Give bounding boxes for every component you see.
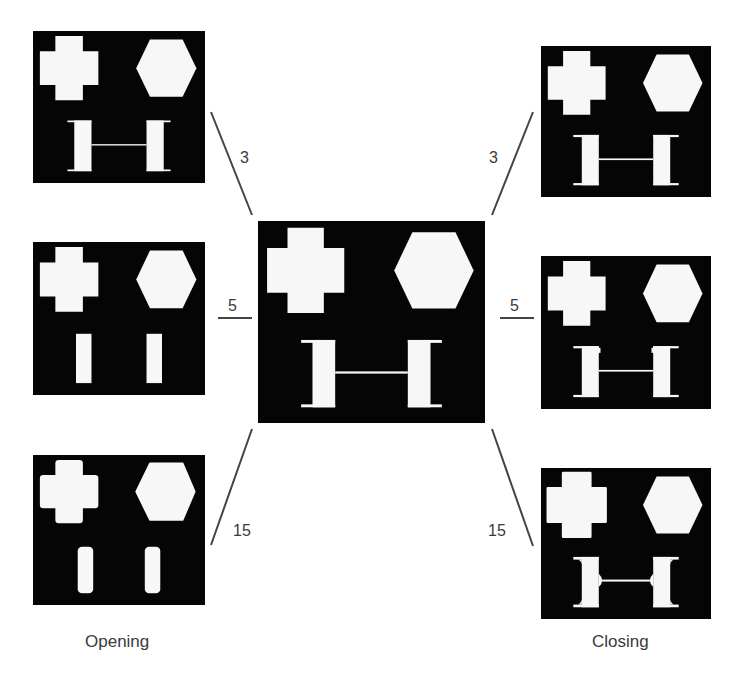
cropped-caption <box>0 0 738 6</box>
hexagon-shape <box>394 232 473 308</box>
original-image-panel <box>258 221 485 423</box>
closing-panel-5 <box>541 256 711 409</box>
closing-panel-3 <box>541 46 711 197</box>
size-label-open-15: 15 <box>233 523 251 539</box>
opening-panel-3 <box>33 31 205 183</box>
opening-panel-5 <box>33 242 205 395</box>
size-label-open-3: 3 <box>240 150 249 166</box>
closing-column-label: Closing <box>592 632 649 652</box>
opening-panel-15 <box>33 455 205 605</box>
opening-column-label: Opening <box>85 632 149 652</box>
size-label-open-5: 5 <box>228 298 237 314</box>
size-label-close-15: 15 <box>488 523 506 539</box>
cross-shape <box>267 228 344 313</box>
size-label-close-5: 5 <box>510 298 519 314</box>
size-label-close-3: 3 <box>489 150 498 166</box>
connector-close-3 <box>492 112 533 215</box>
h-beam-shape <box>301 340 442 407</box>
closing-panel-15 <box>541 468 711 619</box>
